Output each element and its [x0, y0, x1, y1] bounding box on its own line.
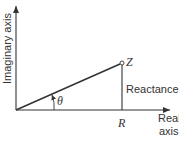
r-point-label: R — [117, 116, 126, 130]
impedance-diagram: Imaginary axis θ Z Reactance S R Real ax… — [0, 0, 179, 141]
real-axis-label-line1: Real — [158, 112, 179, 124]
z-point-marker — [120, 61, 124, 65]
reactance-text: Reactance — [126, 83, 179, 95]
reactance-label: Reactance S — [126, 82, 179, 96]
angle-arc-icon — [52, 95, 54, 110]
angle-theta-label: θ — [57, 94, 63, 108]
impedance-vector — [16, 64, 120, 110]
imaginary-axis-label: Imaginary axis — [1, 13, 13, 84]
real-axis-label-line2: axis — [159, 125, 179, 137]
z-point-label: Z — [126, 55, 133, 69]
